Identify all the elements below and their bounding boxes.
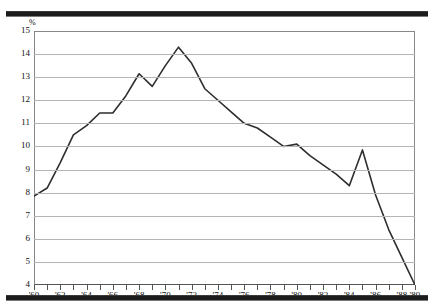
gridline bbox=[34, 262, 415, 263]
y-axis-tick-label: 9 bbox=[8, 165, 30, 174]
chart-area: % 151413121110987654 '60'62'64'66'68'70'… bbox=[0, 18, 434, 293]
y-axis-tick-label: 11 bbox=[8, 118, 30, 127]
bottom-rule bbox=[6, 295, 428, 301]
y-axis-tick-label: 8 bbox=[8, 188, 30, 197]
y-axis-tick-label: 5 bbox=[8, 257, 30, 266]
y-axis-tick-label: 10 bbox=[8, 141, 30, 150]
gridline bbox=[34, 193, 415, 194]
gridline bbox=[34, 216, 415, 217]
y-axis-tick-label: 15 bbox=[8, 26, 30, 35]
top-rule bbox=[6, 11, 428, 17]
gridline bbox=[34, 123, 415, 124]
y-axis-tick-label: 6 bbox=[8, 234, 30, 243]
y-axis-tick-label: 4 bbox=[8, 280, 30, 289]
gridline bbox=[34, 146, 415, 147]
gridline bbox=[34, 170, 415, 171]
line-series bbox=[34, 31, 415, 285]
y-axis-tick-label: 13 bbox=[8, 72, 30, 81]
y-axis-tick-label: 7 bbox=[8, 211, 30, 220]
plot-area bbox=[34, 31, 415, 285]
series-polyline bbox=[34, 47, 415, 285]
figure-root: % 151413121110987654 '60'62'64'66'68'70'… bbox=[0, 0, 434, 305]
gridline bbox=[34, 77, 415, 78]
gridline bbox=[34, 100, 415, 101]
y-axis-tick-label: 14 bbox=[8, 49, 30, 58]
gridline bbox=[34, 239, 415, 240]
y-axis-unit-label: % bbox=[29, 18, 36, 27]
gridline bbox=[34, 54, 415, 55]
y-axis-tick-label: 12 bbox=[8, 95, 30, 104]
